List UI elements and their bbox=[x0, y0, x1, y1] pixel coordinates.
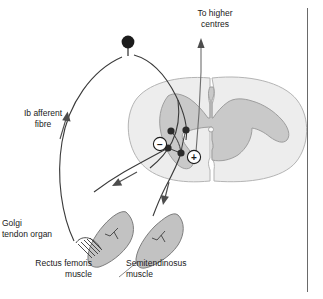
efferent-arrow-semitendinosus bbox=[161, 195, 169, 205]
efferent-arrow-rectus bbox=[112, 178, 122, 186]
dorsal-root-ganglion-cell-body bbox=[122, 36, 135, 49]
ascending-tract-arrow bbox=[197, 38, 204, 48]
synapse-dot-2 bbox=[182, 126, 189, 133]
synapse-dot-4 bbox=[177, 149, 184, 156]
figure-canvas: − + To higher centres Ib afferent fibre … bbox=[0, 0, 323, 299]
central-canal bbox=[209, 127, 214, 132]
label-ib-afferent-fibre: Ib afferent fibre bbox=[12, 108, 74, 130]
label-golgi-tendon-organ: Golgi tendon organ bbox=[2, 218, 72, 240]
label-to-higher-centres: To higher centres bbox=[178, 8, 252, 30]
label-rectus-femoris-muscle: Rectus femoris muscle bbox=[8, 258, 92, 280]
synapse-dot-1 bbox=[167, 127, 174, 134]
label-semitendinosus-muscle: Semitendinosus muscle bbox=[126, 258, 206, 280]
ib-afferent-fibre-line bbox=[60, 57, 122, 241]
inhibitory-sign-marker: − bbox=[153, 138, 167, 151]
panel-divider bbox=[307, 8, 308, 292]
excitatory-sign-marker: + bbox=[187, 151, 201, 164]
